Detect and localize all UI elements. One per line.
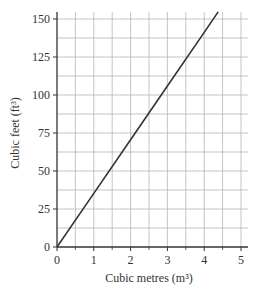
x-axis-label: Cubic metres (m³) (105, 271, 193, 285)
x-tick-label: 0 (54, 253, 60, 267)
y-tick-label: 125 (32, 50, 50, 64)
axes (57, 12, 248, 247)
x-tick-label: 4 (201, 253, 207, 267)
y-tick-label: 0 (44, 240, 50, 254)
x-tick-label: 1 (91, 253, 97, 267)
y-tick-label: 25 (38, 202, 50, 216)
y-tick-label: 150 (32, 12, 50, 26)
conversion-line (57, 12, 218, 247)
y-tick-label: 100 (32, 88, 50, 102)
grid-lines (57, 12, 248, 247)
x-tick-label: 2 (128, 253, 134, 267)
x-tick-label: 3 (164, 253, 170, 267)
y-axis-ticks: 0255075100125150 (32, 12, 57, 254)
line-chart: 012345 0255075100125150 Cubic metres (m³… (0, 0, 261, 293)
y-tick-label: 50 (38, 164, 50, 178)
x-axis-ticks: 012345 (54, 247, 244, 267)
x-tick-label: 5 (238, 253, 244, 267)
y-axis-label: Cubic feet (ft³) (8, 97, 22, 169)
y-tick-label: 75 (38, 126, 50, 140)
